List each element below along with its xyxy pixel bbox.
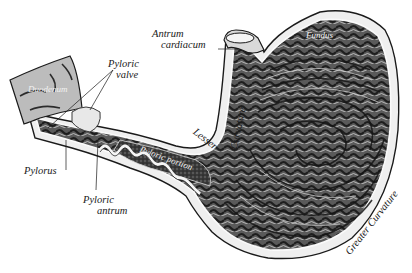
label-antrum-cardiacum: Antrum cardiacum: [152, 28, 206, 50]
label-pyloric-valve-line1: Pyloric: [108, 58, 139, 69]
label-pyloric-valve: Pyloric valve: [108, 58, 139, 80]
stomach-diagram: Antrum cardiacum Fundus Duodenum Pyloric…: [0, 0, 412, 273]
label-pyloric-antrum-line2: antrum: [83, 205, 127, 216]
label-duodenum: Duodenum: [28, 84, 68, 95]
label-antrum-cardiacum-line2: cardiacum: [152, 39, 206, 50]
label-pyloric-antrum: Pyloric antrum: [83, 194, 127, 216]
label-pyloric-antrum-line1: Pyloric: [83, 194, 127, 205]
label-pyloric-valve-line2: valve: [108, 69, 139, 80]
label-antrum-cardiacum-line1: Antrum: [152, 28, 206, 39]
label-fundus: Fundus: [306, 30, 333, 41]
label-pylorus: Pylorus: [24, 165, 57, 176]
